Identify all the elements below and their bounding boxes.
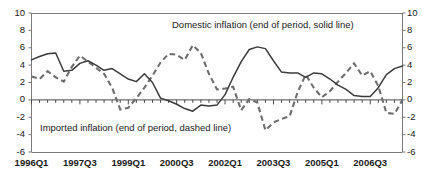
x-axis-tick-label: 2000Q3 [160, 158, 194, 168]
y-axis-tick-label: 0 [407, 94, 429, 104]
y-axis-tick-label: 10 [3, 8, 25, 18]
x-axis-tick-label: 2002Q1 [208, 158, 242, 168]
y-axis-tick-label: -2 [407, 112, 429, 122]
x-axis-tick-label: 2005Q1 [305, 158, 339, 168]
x-axis-tick-label: 1997Q3 [63, 158, 97, 168]
y-axis-tick-label: 6 [407, 42, 429, 52]
y-axis-tick-label: 0 [3, 94, 25, 104]
y-axis-tick-label: 4 [3, 60, 25, 70]
annotation-imported-inflation: Imported inflation (end of period, dashe… [40, 122, 231, 133]
series-line-imported-inflation [32, 45, 403, 130]
y-axis-tick-label: -4 [3, 129, 25, 139]
y-axis-tick-label: -6 [3, 147, 25, 157]
y-axis-tick-label: -2 [3, 112, 25, 122]
y-axis-tick-label: -6 [407, 147, 429, 157]
y-axis-tick-label: 4 [407, 60, 429, 70]
y-axis-tick-label: -4 [407, 129, 429, 139]
annotation-domestic-inflation: Domestic inflation (end of period, solid… [172, 19, 354, 30]
x-axis-ticks [32, 100, 403, 105]
y-axis-tick-label: 2 [407, 77, 429, 87]
x-axis-tick-label: 2003Q3 [257, 158, 291, 168]
y-axis-tick-label: 6 [3, 42, 25, 52]
chart-container: 1086420-2-4-6 1086420-2-4-6 1996Q11997Q3… [0, 0, 430, 179]
x-axis-tick-label: 1999Q1 [111, 158, 145, 168]
x-axis-tick-label: 1996Q1 [15, 158, 49, 168]
y-axis-tick-label: 8 [407, 25, 429, 35]
y-axis-tick-label: 10 [407, 8, 429, 18]
y-axis-tick-label: 2 [3, 77, 25, 87]
y-axis-tick-label: 8 [3, 25, 25, 35]
x-axis-tick-label: 2006Q3 [353, 158, 387, 168]
